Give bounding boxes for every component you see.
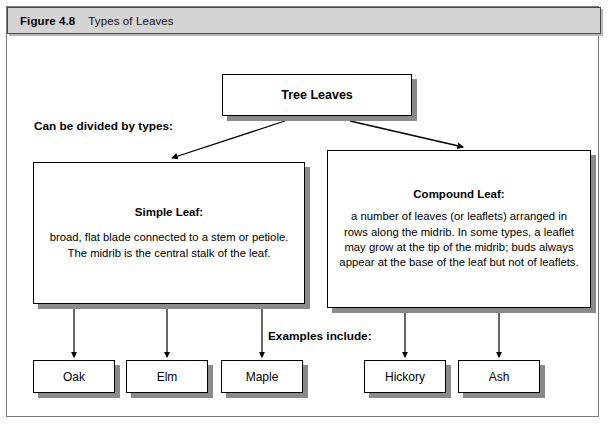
- node-compound-leaf-description: a number of leaves (or leaflets) arrange…: [328, 209, 590, 271]
- node-example-maple: Maple: [221, 360, 303, 393]
- node-compound-leaf-heading: Compound Leaf:: [413, 187, 504, 201]
- figure-number: Figure 4.8: [20, 15, 75, 27]
- node-simple-leaf-heading: Simple Leaf:: [135, 205, 203, 219]
- node-compound-leaf: Compound Leaf: a number of leaves (or le…: [327, 150, 591, 308]
- node-tree-leaves: Tree Leaves: [222, 74, 412, 116]
- label-examples-include: Examples include:: [268, 329, 372, 343]
- node-example-ash: Ash: [458, 360, 540, 393]
- node-simple-leaf-description: broad, flat blade connected to a stem or…: [34, 230, 304, 261]
- node-example-ash-label: Ash: [489, 370, 510, 384]
- node-example-elm-label: Elm: [157, 370, 178, 384]
- node-example-hickory: Hickory: [364, 360, 446, 393]
- figure-container: Figure 4.8 Types of Leaves Tree Leaves C…: [0, 0, 609, 428]
- node-example-oak: Oak: [33, 360, 115, 393]
- figure-caption-bar: Figure 4.8 Types of Leaves: [7, 7, 601, 34]
- label-can-be-divided-by-types: Can be divided by types:: [34, 119, 173, 133]
- figure-title: Types of Leaves: [88, 15, 173, 27]
- node-example-hickory-label: Hickory: [385, 370, 425, 384]
- node-simple-leaf: Simple Leaf: broad, flat blade connected…: [33, 162, 305, 304]
- node-example-oak-label: Oak: [63, 370, 85, 384]
- node-example-elm: Elm: [126, 360, 208, 393]
- node-example-maple-label: Maple: [246, 370, 279, 384]
- node-tree-leaves-label: Tree Leaves: [281, 88, 353, 102]
